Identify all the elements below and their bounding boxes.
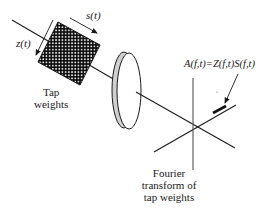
fourier-label-line3: tap weights [124,191,214,203]
annotation-arrow [225,74,238,103]
optical-axis-out [136,92,235,148]
frequency-axis [154,105,236,152]
lens [112,52,141,129]
fourier-label-line2: transform of [124,179,214,191]
s-t-label: s(t) [86,9,101,21]
equation-label: A(f,t)=Z(f,t)S(f,t) [184,58,255,70]
tap-weights-label-line1: Tap [43,86,59,98]
z-t-label: z(t) [16,37,31,49]
tap-weights-label-line2: weights [34,98,68,110]
fourier-label-line1: Fourier [134,167,204,179]
diagram-canvas: s(t) z(t) Tap weights A(f,t)=Z(f,t)S(f,t… [0,0,274,211]
